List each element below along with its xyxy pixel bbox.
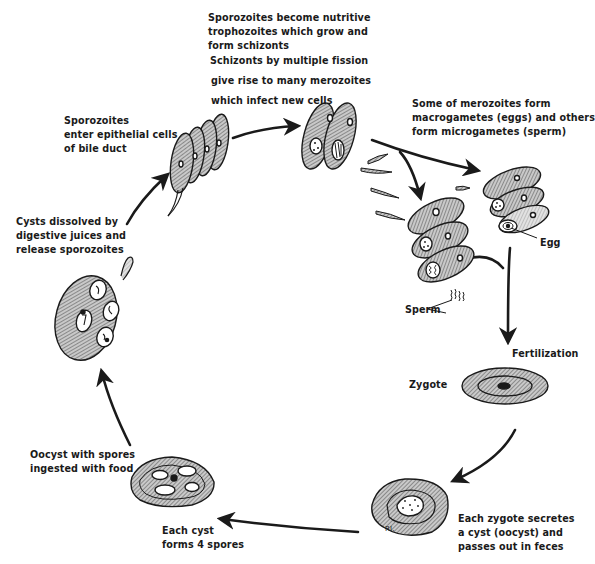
artist-signature: RI. <box>385 521 394 537</box>
label-each-zygote: Each zygote secretes a cyst (oocyst) and… <box>458 512 575 554</box>
label-sperm: Sperm <box>405 302 441 318</box>
zygote <box>462 368 548 404</box>
label-schizonts-line: Schizonts by multiple fission <box>210 53 371 69</box>
egg-cells <box>479 161 552 239</box>
arrow-to-dissolving-cyst <box>102 373 130 445</box>
arrow-to-epithelial <box>127 176 166 224</box>
label-line: Oocyst with spores <box>30 448 135 462</box>
label-line: passes out in feces <box>458 540 575 554</box>
label-line: form microgametes (sperm) <box>412 125 595 139</box>
label-line: Cysts dissolved by <box>16 215 126 229</box>
label-oocyst-ingested: Oocyst with spores ingested with food <box>30 448 135 476</box>
label-line: ingested with food <box>30 462 135 476</box>
arrow-to-oocyst <box>455 430 515 480</box>
label-schizonts-line: which infect new cells <box>211 93 371 109</box>
label-cysts-dissolved: Cysts dissolved by digestive juices and … <box>16 215 126 257</box>
arrow-fertilization <box>508 248 510 340</box>
label-fertilization: Fertilization <box>512 346 579 362</box>
schizont-cells <box>296 100 363 173</box>
label-sporozoites-enter: Sporozoites enter epithelial cells of bi… <box>64 114 177 156</box>
arrow-to-schizonts <box>233 126 296 138</box>
label-line: Each cyst <box>162 524 244 538</box>
label-line: macrogametes (eggs) and others <box>412 111 595 125</box>
label-line: of bile duct <box>64 142 177 156</box>
arrow-to-sperm <box>400 152 420 196</box>
dissolving-cyst <box>46 257 133 367</box>
label-gametes: Some of merozoites form macrogametes (eg… <box>412 97 595 139</box>
label-line: Sporozoites <box>64 114 177 128</box>
spore-cyst <box>131 457 214 507</box>
sperm-cells <box>403 191 479 290</box>
label-schizonts-line: give rise to many merozoites <box>211 73 371 89</box>
label-line: release sporozoites <box>16 243 126 257</box>
label-zygote: Zygote <box>409 377 447 393</box>
label-line: digestive juices and <box>16 229 126 243</box>
label-schizonts: Sporozoites become nutritive trophozoite… <box>208 10 371 109</box>
label-line: enter epithelial cells <box>64 128 177 142</box>
label-line: Some of merozoites form <box>412 97 595 111</box>
label-egg: Egg <box>540 235 561 251</box>
label-schizonts-line: form schizonts <box>208 38 371 54</box>
label-line: a cyst (oocyst) and <box>458 526 575 540</box>
arrow-to-eggs <box>372 140 476 170</box>
label-line: Each zygote secretes <box>458 512 575 526</box>
label-each-cyst: Each cyst forms 4 spores <box>162 524 244 552</box>
oocyst <box>372 479 448 535</box>
label-line: forms 4 spores <box>162 538 244 552</box>
